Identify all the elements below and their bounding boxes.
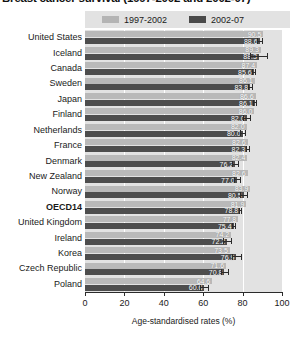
bar-2002-07	[85, 161, 235, 167]
bar-row: 71.670.8	[85, 261, 282, 276]
axis-tick-label: 60	[198, 298, 208, 308]
gridline	[282, 30, 283, 292]
error-bar-cap	[239, 208, 240, 214]
legend-swatch-icon	[189, 16, 206, 23]
bar-1997-2002	[85, 247, 230, 253]
error-bar-cap	[248, 84, 249, 90]
error-bar	[250, 56, 267, 57]
bar-row: 64.660.6	[85, 277, 282, 292]
bar-2002-07	[85, 208, 240, 214]
bar-row: 82.080.0	[85, 122, 282, 137]
category-label: Ireland	[0, 234, 82, 243]
legend-label: 1997-2002	[124, 15, 167, 25]
bar-row: 74.272.2	[85, 230, 282, 245]
error-bar-cap	[200, 285, 201, 291]
bar-row: 82.682.3	[85, 138, 282, 153]
error-bar-cap	[208, 285, 209, 291]
bar-1997-2002	[85, 124, 247, 130]
axis-tick-label: 40	[159, 298, 169, 308]
legend-item-2002-07: 2002-07	[189, 15, 244, 25]
value-axis: 020406080100 Age-standardised rates (%)	[85, 292, 282, 352]
category-label: France	[0, 141, 82, 150]
axis-tick	[164, 292, 165, 296]
axis-tick	[282, 292, 283, 296]
error-bar	[223, 241, 231, 242]
error-bar-cap	[240, 192, 241, 198]
error-bar-cap	[223, 238, 224, 244]
error-bar-cap	[253, 100, 254, 106]
bar-row: 87.485.6	[85, 61, 282, 76]
bar-row: 89.388.3	[85, 45, 282, 60]
category-label: Poland	[0, 280, 82, 289]
bar-value-label: 82.4	[232, 154, 246, 161]
error-bar-cap	[246, 146, 247, 152]
error-bar-cap	[267, 53, 268, 59]
category-label: Korea	[0, 249, 82, 258]
error-bar-cap	[262, 38, 263, 44]
bar-2002-07	[85, 69, 254, 75]
bar-value-label: 83.8	[234, 84, 248, 91]
bar-value-label: 80.0	[227, 130, 241, 137]
error-bar-cap	[232, 254, 233, 260]
category-label: New Zealand	[0, 172, 82, 181]
error-bar-cap	[232, 223, 233, 229]
bar-2002-07	[85, 239, 227, 245]
category-label: Finland	[0, 110, 82, 119]
bar-row: 83.980.5	[85, 184, 282, 199]
bar-2002-07	[85, 285, 204, 291]
bar-value-label: 82.3	[232, 146, 246, 153]
category-label: United Kingdom	[0, 218, 82, 227]
bar-2002-07	[85, 115, 247, 121]
error-bar-cap	[234, 177, 235, 183]
error-bar-cap	[228, 269, 229, 275]
bar-1997-2002	[85, 31, 263, 37]
bar-1997-2002	[85, 278, 212, 284]
bar-1997-2002	[85, 186, 250, 192]
bar-2002-07	[85, 54, 259, 60]
axis-tick	[85, 292, 86, 296]
category-label: Netherlands	[0, 126, 82, 135]
bar-2002-07	[85, 223, 234, 229]
axis-tick	[243, 292, 244, 296]
bar-value-label: 88.6	[244, 38, 258, 45]
chart-legend: 1997-2002 2002-07	[85, 11, 290, 28]
error-bar-cap	[255, 69, 256, 75]
bar-2002-07	[85, 269, 224, 275]
error-bar-cap	[250, 115, 251, 121]
plot-area: 90.588.689.388.387.485.686.183.886.686.1…	[85, 30, 282, 292]
error-bar-cap	[245, 130, 246, 136]
bar-1997-2002	[85, 93, 256, 99]
bar-row: 77.875.4	[85, 215, 282, 230]
bar-1997-2002	[85, 108, 254, 114]
bar-value-label: 75.4	[218, 223, 232, 230]
bar-1997-2002	[85, 232, 231, 238]
error-bar-cap	[240, 177, 241, 183]
bar-2002-07	[85, 254, 236, 260]
error-bar	[232, 256, 240, 257]
bar-1997-2002	[85, 47, 261, 53]
error-bar	[240, 195, 247, 196]
chart-title-strip: Breast cancer survival (1997-2002 and 20…	[0, 0, 290, 10]
bar-1997-2002	[85, 263, 226, 269]
category-label: OECD14	[0, 203, 82, 212]
error-bar-cap	[232, 161, 233, 167]
error-bar-cap	[256, 100, 257, 106]
axis-tick-label: 100	[274, 298, 289, 308]
error-bar	[200, 287, 208, 288]
axis-tick-label: 20	[119, 298, 129, 308]
bar-1997-2002	[85, 216, 238, 222]
error-bar-cap	[252, 69, 253, 75]
category-label: Czech Republic	[0, 264, 82, 273]
bar-1997-2002	[85, 201, 246, 207]
legend-swatch-icon	[102, 16, 119, 23]
bar-value-label: 86.1	[239, 100, 253, 107]
bar-2002-07	[85, 100, 255, 106]
legend-label: 2002-07	[211, 15, 244, 25]
bar-2002-07	[85, 177, 237, 183]
axis-tick	[124, 292, 125, 296]
category-axis-labels: United StatesIcelandCanadaSwedenJapanFin…	[0, 30, 82, 292]
bar-2002-07	[85, 192, 244, 198]
axis-tick-label: 80	[238, 298, 248, 308]
bar-1997-2002	[85, 170, 248, 176]
error-bar-cap	[257, 38, 258, 44]
